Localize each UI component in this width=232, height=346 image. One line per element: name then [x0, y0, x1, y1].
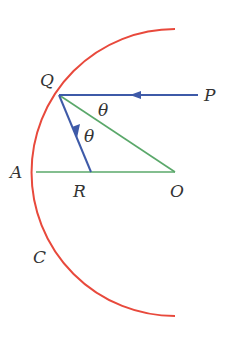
- label-theta-reflected: θ: [84, 126, 94, 146]
- label-C: C: [33, 247, 46, 267]
- label-A: A: [8, 162, 22, 182]
- label-O: O: [170, 181, 184, 201]
- label-Q: Q: [40, 70, 54, 90]
- label-theta-incident: θ: [98, 100, 108, 120]
- mirror-reflection-diagram: Q P θ θ A R O C: [0, 0, 232, 346]
- label-R: R: [72, 181, 86, 201]
- label-P: P: [203, 85, 216, 105]
- incident-arrow-icon: [130, 91, 141, 99]
